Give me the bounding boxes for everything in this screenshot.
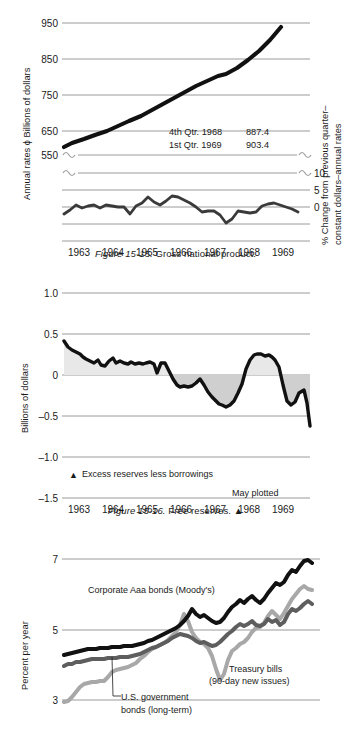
gnp-percent-change-line — [64, 196, 298, 223]
annotation-label-0: 4th Qtr. 1968 — [169, 127, 222, 137]
label-us-government-bonds-line2: bonds (long-term) — [121, 705, 192, 715]
free-reserves-gridlines — [62, 293, 310, 498]
svg-text:–1.5: –1.5 — [39, 493, 59, 504]
gnp-right-axis-label-line1: % Change from previous quarter– — [320, 105, 330, 245]
series-us-government-bonds-line — [64, 601, 312, 666]
interest-rates-y-axis-ticks: 7 5 3 — [52, 554, 58, 706]
svg-text:1.0: 1.0 — [44, 288, 58, 299]
svg-text:950: 950 — [41, 18, 58, 29]
free-reserves-negative-fill — [64, 341, 310, 411]
interest-rates-y-axis-label: Percent per year — [20, 621, 30, 690]
annotation-value-0: 887.4 — [246, 127, 269, 137]
annotation-value-1: 903.4 — [246, 140, 269, 150]
gnp-left-axis-label: Annual rates ϕ Billions of dollars — [22, 67, 32, 200]
us-govt-bonds-leader-line — [112, 657, 121, 696]
free-reserves-y-axis-ticks: 1.0 0.5 0 –0.5 –1.0 –1.5 — [39, 288, 59, 504]
figure-15-15-caption-number: Figure 15-15. — [95, 248, 153, 259]
svg-text:–0.5: –0.5 — [39, 411, 59, 422]
svg-text:0: 0 — [52, 370, 58, 381]
svg-text:550: 550 — [41, 150, 58, 161]
gnp-y-axis-ticks: 950 850 750 650 550 — [41, 18, 58, 161]
svg-text:7: 7 — [52, 554, 58, 565]
gnp-annotation: 4th Qtr. 1968 887.4 1st Qtr. 1969 903.4 — [169, 127, 269, 150]
free-reserves-chart-svg: 1.0 0.5 0 –0.5 –1.0 –1.5 1963 1964 1965 … — [0, 268, 351, 530]
may-plotted-note: May plotted — [232, 488, 279, 498]
figure-15-16-caption-number: Figure 15-16. — [108, 505, 166, 516]
svg-text:5: 5 — [52, 625, 58, 636]
figure-15-16-caption-text: Free reserves. ▲ — [168, 505, 243, 516]
figure-interest-rates: 7 5 3 Percent per year Corporate Aaa bon… — [0, 530, 351, 751]
svg-text:3: 3 — [52, 695, 58, 706]
svg-text:650: 650 — [41, 126, 58, 137]
figure-free-reserves: 1.0 0.5 0 –0.5 –1.0 –1.5 1963 1964 1965 … — [0, 268, 351, 530]
figure-15-16-caption: Figure 15-16. Free reserves. ▲ — [0, 505, 351, 516]
gnp-chart-svg: 950 850 750 650 550 10 5 0 1963 1964 196… — [0, 0, 351, 268]
gnp-right-axis-label-line2: constant dollars–annual rates — [333, 123, 343, 245]
svg-text:850: 850 — [41, 54, 58, 65]
label-treasury-bills-line1: Treasury bills — [229, 664, 283, 674]
svg-text:–1.0: –1.0 — [39, 452, 59, 463]
interest-rates-chart-svg: 7 5 3 Percent per year Corporate Aaa bon… — [0, 530, 351, 751]
svg-text:750: 750 — [41, 90, 58, 101]
figure-gross-national-product: 950 850 750 650 550 10 5 0 1963 1964 196… — [0, 0, 351, 268]
free-reserves-y-axis-label: Billions of dollars — [20, 363, 30, 433]
annotation-label-1: 1st Qtr. 1969 — [169, 140, 222, 150]
label-treasury-bills-line2: (90-day new issues) — [209, 676, 290, 686]
svg-text:0.5: 0.5 — [44, 329, 58, 340]
series-corporate-aaa-bonds-line — [64, 560, 312, 655]
figure-15-15-caption: Figure 15-15. Gross national product. — [0, 248, 351, 259]
label-corporate-aaa-bonds: Corporate Aaa bonds (Moody's) — [88, 585, 215, 595]
figure-15-15-caption-text: Gross national product. — [156, 248, 257, 259]
label-us-government-bonds-line1: U.S. government — [121, 692, 189, 702]
triangle-marker-icon: ▲ — [69, 470, 78, 480]
axis-break-squiggles — [63, 153, 311, 176]
free-reserves-legend-text: Excess reserves less borrowings — [82, 469, 214, 479]
